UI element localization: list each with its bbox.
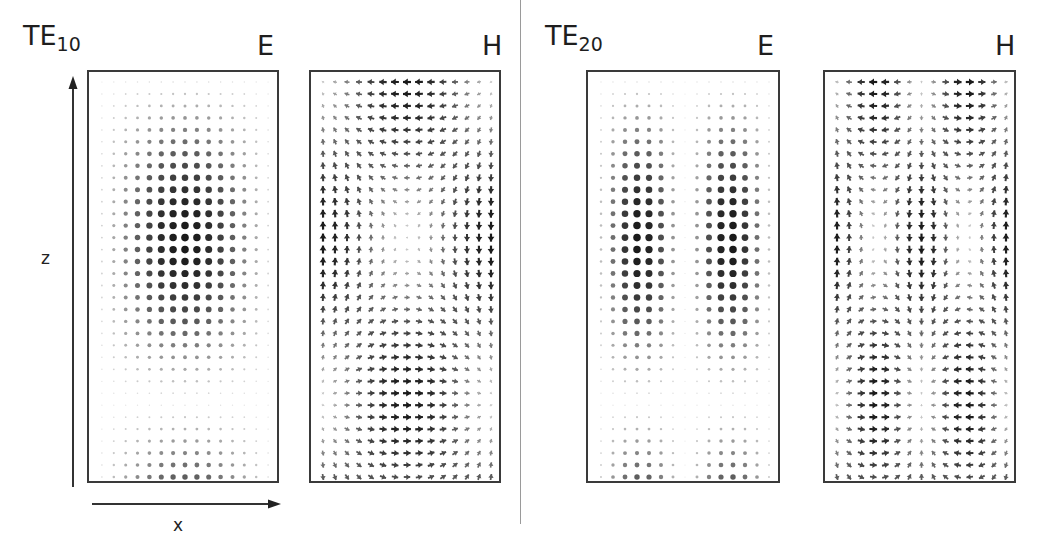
te20-h-field-arrows — [825, 72, 1018, 485]
te10-h-field-panel — [309, 70, 501, 483]
te20-h-label: H — [995, 32, 1015, 59]
x-axis-arrow-icon — [92, 500, 281, 509]
x-axis-label: x — [173, 515, 183, 535]
te20-e-field-panel — [586, 70, 780, 483]
te20-title: TE20 — [545, 22, 603, 54]
axis-arrows — [0, 0, 300, 559]
te10-h-label: H — [482, 32, 502, 59]
mode-divider — [520, 0, 521, 524]
te20-e-field-dots — [588, 72, 782, 485]
te20-h-field-panel — [823, 70, 1016, 483]
te10-h-field-arrows — [311, 72, 503, 485]
z-axis-label: z — [41, 248, 50, 268]
te20-title-sub: 20 — [579, 33, 603, 55]
te20-e-label: E — [757, 32, 774, 59]
z-axis-arrow-icon — [69, 76, 78, 487]
te20-title-main: TE — [545, 20, 579, 51]
